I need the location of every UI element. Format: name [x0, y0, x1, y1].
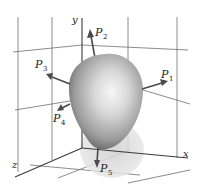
label-p3: P 3 [34, 58, 47, 73]
normal-vector-p4 [57, 104, 70, 111]
svg-text:4: 4 [61, 119, 66, 127]
label-p4: P 4 [52, 112, 66, 127]
label-p1: P 1 [160, 68, 173, 83]
svg-text:3: 3 [43, 65, 47, 73]
normal-vector-p2 [87, 29, 95, 58]
svg-text:P: P [94, 26, 103, 39]
svg-text:P: P [34, 58, 43, 71]
surface-normal-diagram: y x z P 1 P 2 P 3 P 4 P 5 [0, 0, 201, 186]
normal-vector-p3 [46, 73, 70, 84]
label-p2: P 2 [94, 26, 107, 41]
z-axis-label: z [11, 159, 18, 170]
svg-text:P: P [99, 162, 108, 175]
svg-text:P: P [52, 112, 61, 125]
svg-text:P: P [160, 68, 169, 81]
svg-text:5: 5 [108, 169, 112, 177]
svg-text:2: 2 [103, 33, 107, 41]
y-axis-label: y [71, 14, 78, 25]
x-axis-label: x [183, 148, 189, 159]
svg-text:1: 1 [169, 75, 173, 83]
